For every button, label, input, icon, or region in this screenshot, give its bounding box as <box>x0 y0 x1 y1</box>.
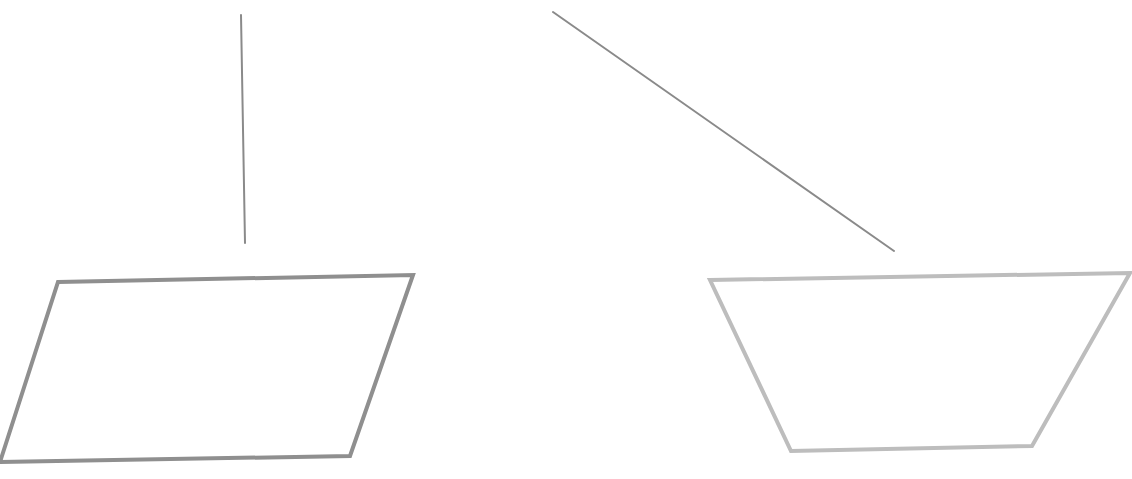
vertical-line <box>241 15 245 243</box>
diagram-canvas <box>0 0 1132 479</box>
parallelogram-shape <box>0 275 413 462</box>
diagonal-line <box>553 12 894 251</box>
clipped-caption-text <box>880 463 1132 479</box>
trapezoid-shape <box>710 273 1130 451</box>
